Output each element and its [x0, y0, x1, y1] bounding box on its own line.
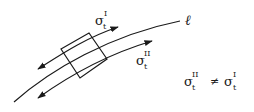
stress-diagram: ℓ σ t I σ t II σ t II ≠ σ t I: [0, 0, 254, 112]
svg-text:I: I: [104, 9, 107, 18]
svg-text:II: II: [192, 70, 198, 79]
curve-label: ℓ: [185, 12, 191, 28]
svg-text:σ: σ: [224, 74, 233, 89]
svg-text:II: II: [144, 49, 150, 58]
svg-text:t: t: [103, 22, 107, 31]
svg-text:t: t: [144, 62, 148, 71]
curve-l: [14, 21, 180, 102]
svg-text:t: t: [233, 83, 237, 92]
lower-stress-label: σ t II: [136, 49, 150, 71]
inequality-equation: σ t II ≠ σ t I: [184, 70, 237, 92]
svg-text:I: I: [233, 70, 236, 79]
upper-stress-label: σ t I: [95, 9, 107, 31]
upper-stress-arrow: [38, 27, 118, 69]
svg-text:t: t: [192, 83, 196, 92]
svg-text:≠: ≠: [210, 75, 219, 88]
